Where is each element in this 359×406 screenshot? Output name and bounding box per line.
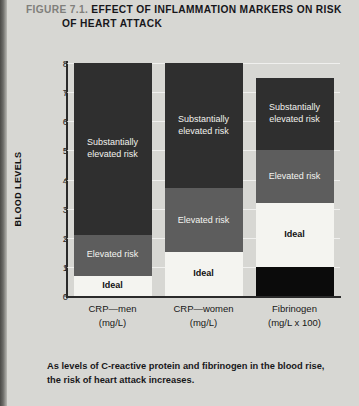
category-name: CRP—women — [173, 303, 233, 314]
bar-segment: Substantially elevated risk — [74, 63, 152, 235]
bar-segment: Elevated risk — [256, 150, 334, 202]
x-axis-category-label: Fibrinogen(mg/L x 100) — [235, 302, 355, 329]
category-name: Fibrinogen — [272, 303, 317, 314]
bar-segment: Substantially elevated risk — [256, 78, 334, 151]
bar-segment: Ideal — [74, 276, 152, 296]
bar: IdealElevated riskSubstantially elevated… — [256, 78, 334, 296]
bar-segment-label: Substantially elevated risk — [176, 114, 231, 137]
bar-segment: Substantially elevated risk — [165, 63, 243, 188]
bar-segment: Elevated risk — [165, 188, 243, 252]
figure-title-line-2: OF HEART ATTACK — [26, 17, 351, 31]
bar: IdealElevated riskSubstantially elevated… — [74, 63, 152, 296]
bar-segment-label: Elevated risk — [176, 215, 232, 227]
bar-segment: Ideal — [165, 252, 243, 296]
y-axis-title: BLOOD LEVELS — [13, 149, 23, 229]
x-axis-line — [66, 296, 341, 298]
bar-segment-label: Elevated risk — [267, 171, 323, 183]
bar-segment-label: Ideal — [100, 280, 125, 292]
y-axis-ticks: 012345678 — [44, 63, 68, 296]
category-name: CRP—men — [88, 303, 136, 314]
bar-segment-label: Ideal — [191, 268, 216, 280]
figure-number: FIGURE 7.1. — [26, 4, 88, 15]
figure-title-line-1: EFFECT OF INFLAMMATION MARKERS ON RISK — [91, 4, 341, 15]
category-unit: (mg/L x 100) — [235, 316, 355, 330]
bar: IdealElevated riskSubstantially elevated… — [165, 63, 243, 296]
bar-segment-label: Elevated risk — [85, 249, 141, 261]
bar-segment-label: Substantially elevated risk — [85, 137, 140, 160]
bar-segment — [256, 267, 334, 296]
chart: BLOOD LEVELS 012345678 IdealElevated ris… — [0, 52, 359, 352]
plot-area: IdealElevated riskSubstantially elevated… — [67, 63, 340, 296]
bar-segment-label: Substantially elevated risk — [267, 102, 322, 125]
figure-caption: As levels of C-reactive protein and fibr… — [47, 360, 337, 387]
bar-segment-label: Ideal — [282, 229, 307, 241]
bar-segment: Elevated risk — [74, 235, 152, 276]
bar-segment: Ideal — [256, 203, 334, 267]
figure-title: FIGURE 7.1. EFFECT OF INFLAMMATION MARKE… — [26, 3, 351, 31]
